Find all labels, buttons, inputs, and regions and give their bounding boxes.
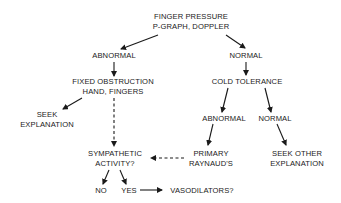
node-text: FINGER PRESSURE <box>153 12 230 22</box>
node-text: FIXED OBSTRUCTION <box>72 77 153 87</box>
node-primary-raynauds: PRIMARY RAYNAUD'S <box>189 149 233 169</box>
node-fixed-obstruction: FIXED OBSTRUCTION HAND, FINGERS <box>72 77 153 97</box>
node-text: SYMPATHETIC <box>88 149 142 159</box>
node-seek-explanation: SEEK EXPLANATION <box>20 110 74 130</box>
node-seek-other-explanation: SEEK OTHER EXPLANATION <box>270 149 324 169</box>
node-sympathetic-activity: SYMPATHETIC ACTIVITY? <box>88 149 142 169</box>
node-text: ACTIVITY? <box>88 159 142 169</box>
node-text: SEEK OTHER <box>270 149 324 159</box>
node-text: PRIMARY <box>189 149 233 159</box>
node-yes: YES <box>121 186 137 196</box>
node-no: NO <box>95 186 107 196</box>
node-vasodilators: VASODILATORS? <box>170 186 233 196</box>
node-cold-tolerance: COLD TOLERANCE <box>212 77 283 87</box>
node-text: EXPLANATION <box>270 159 324 169</box>
node-finger-pressure: FINGER PRESSURE P-GRAPH, DOPPLER <box>153 12 230 32</box>
node-normal: NORMAL <box>229 51 262 61</box>
node-text: P-GRAPH, DOPPLER <box>153 22 230 32</box>
node-normal-2: NORMAL <box>258 114 291 124</box>
node-abnormal-2: ABNORMAL <box>202 114 245 124</box>
node-text: EXPLANATION <box>20 120 74 130</box>
node-text: HAND, FINGERS <box>72 87 153 97</box>
node-abnormal: ABNORMAL <box>92 51 135 61</box>
flowchart: FINGER PRESSURE P-GRAPH, DOPPLER ABNORMA… <box>0 0 341 203</box>
node-text: SEEK <box>20 110 74 120</box>
node-text: RAYNAUD'S <box>189 159 233 169</box>
